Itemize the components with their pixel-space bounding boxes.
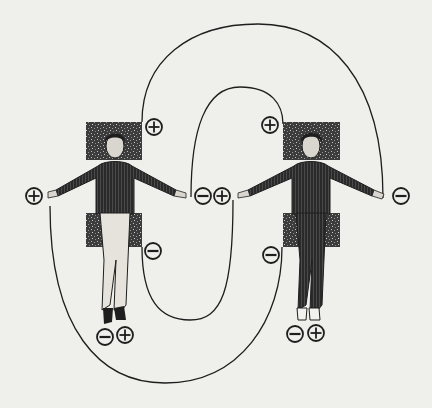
left-right-hand-plus-icon (26, 188, 42, 204)
right-foot-plus-icon (308, 325, 324, 341)
left-hips-minus-icon (145, 243, 161, 259)
polarity-diagram (0, 0, 432, 408)
right-head-plus-icon (262, 117, 278, 133)
right-person (238, 122, 384, 320)
wire-outer-top (142, 24, 383, 198)
left-left-hand-minus-icon (195, 188, 211, 204)
right-left-hand-minus-icon (393, 188, 409, 204)
left-foot-minus-icon (97, 329, 113, 345)
wire-outer-bottom (50, 206, 282, 383)
left-foot-plus-icon (117, 327, 133, 343)
polarity-symbols (26, 117, 409, 345)
left-person (48, 122, 186, 324)
right-right-hand-plus-icon (214, 188, 230, 204)
right-foot-minus-icon (287, 326, 303, 342)
right-hips-minus-icon (263, 247, 279, 263)
diagram-canvas (0, 0, 432, 408)
wire-inner-bottom (142, 200, 233, 320)
left-head-plus-icon (146, 119, 162, 135)
